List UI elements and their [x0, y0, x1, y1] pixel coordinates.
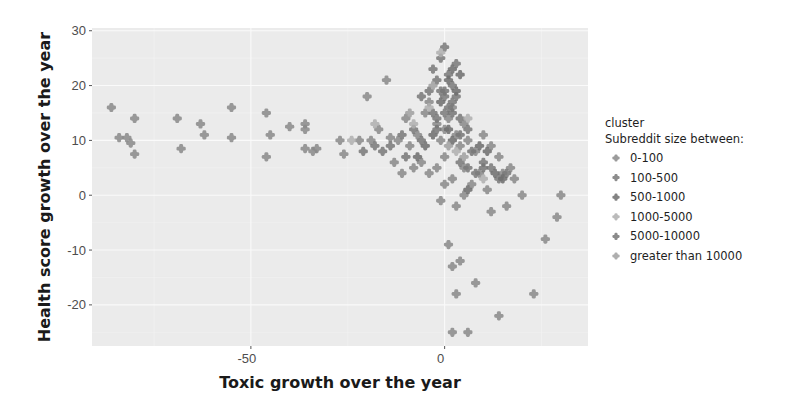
legend-title-cluster: cluster — [605, 116, 644, 130]
legend-title-subreddit-size: Subreddit size between: — [605, 132, 744, 146]
x-tick-label: -50 — [237, 351, 256, 366]
legend-key-icon — [612, 194, 619, 201]
legend-item-label: greater than 10000 — [630, 249, 742, 263]
y-axis-title: Health score growth over the year — [35, 32, 54, 342]
y-tick-label: 0 — [79, 188, 86, 203]
chart-canvas: 3020100-10-20 -500 Toxic growth over the… — [0, 0, 792, 412]
y-tick-label: -20 — [67, 297, 86, 312]
legend-key-icon — [612, 233, 619, 240]
y-axis-ticks: 3020100-10-20 — [67, 23, 92, 312]
y-tick-label: -10 — [67, 243, 86, 258]
legend-items: 0-100100-500500-10001000-50005000-10000g… — [612, 151, 742, 263]
legend-key-icon — [612, 252, 619, 259]
y-tick-label: 10 — [72, 133, 86, 148]
x-axis-title: Toxic growth over the year — [219, 373, 461, 392]
legend: cluster Subreddit size between: 0-100100… — [605, 116, 744, 263]
legend-item-label: 0-100 — [630, 151, 663, 165]
plot-panel — [92, 28, 588, 346]
legend-item-label: 5000-10000 — [630, 229, 700, 243]
legend-item-label: 1000-5000 — [630, 210, 693, 224]
legend-key-icon — [612, 174, 619, 181]
x-tick-label: 0 — [437, 351, 444, 366]
x-axis-ticks: -500 — [237, 346, 444, 366]
legend-item-label: 500-1000 — [630, 190, 685, 204]
legend-item-label: 100-500 — [630, 171, 678, 185]
legend-key-icon — [612, 154, 619, 161]
scatter-chart: 3020100-10-20 -500 Toxic growth over the… — [0, 0, 792, 412]
y-tick-label: 30 — [72, 23, 86, 38]
y-tick-label: 20 — [72, 78, 86, 93]
legend-key-icon — [612, 213, 619, 220]
